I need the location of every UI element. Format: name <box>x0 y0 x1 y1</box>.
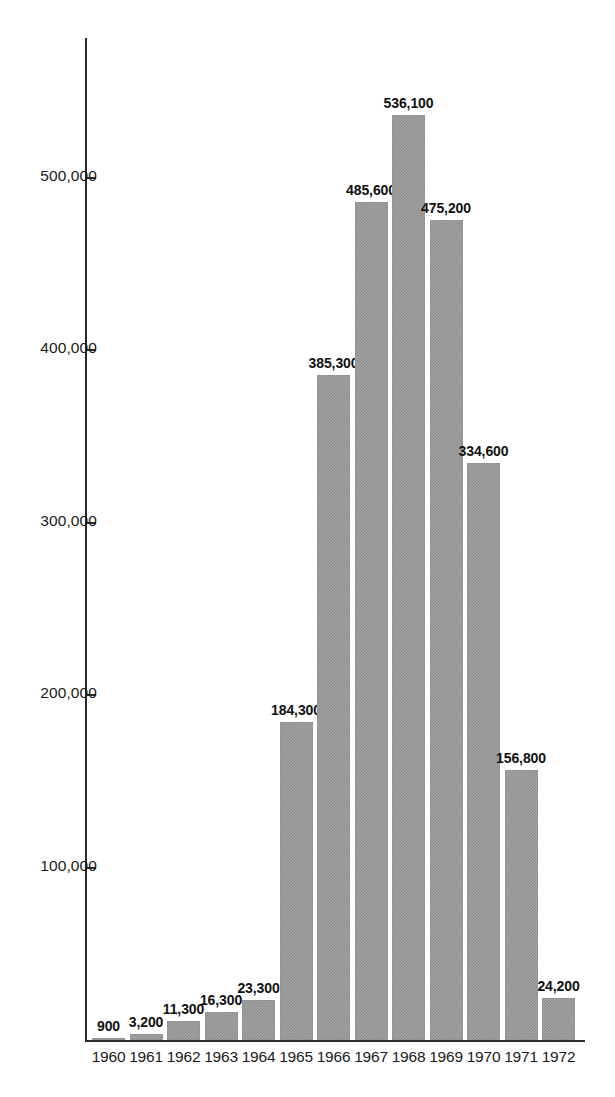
bar <box>92 1038 125 1040</box>
x-axis-tick-label: 1967 <box>352 1048 391 1066</box>
bar-column: 16,300 <box>205 1012 238 1040</box>
bar-value-label: 3,200 <box>129 1014 164 1030</box>
y-axis-tick-label: 200,000 <box>21 684 97 702</box>
bar-column: 385,300 <box>317 375 350 1040</box>
bar-value-label: 23,300 <box>237 980 279 996</box>
bar <box>317 375 350 1040</box>
y-axis-tick-label: 400,000 <box>21 339 97 357</box>
bar <box>355 202 388 1040</box>
x-axis-line <box>85 1040 585 1042</box>
bar-column: 184,300 <box>280 722 313 1040</box>
bar-value-label: 900 <box>97 1018 120 1034</box>
bar <box>430 220 463 1040</box>
bar-value-label: 156,800 <box>496 750 546 766</box>
bar-column: 536,100 <box>392 115 425 1040</box>
bar-value-label: 24,200 <box>537 978 579 994</box>
bar-value-label: 475,200 <box>421 200 471 216</box>
bar <box>392 115 425 1040</box>
bar-value-label: 334,600 <box>459 443 509 459</box>
bar <box>205 1012 238 1040</box>
x-axis-tick-label: 1970 <box>464 1048 503 1066</box>
bar-column: 156,800 <box>505 770 538 1040</box>
x-axis-tick-label: 1963 <box>202 1048 241 1066</box>
bar-value-label: 485,600 <box>346 182 396 198</box>
y-axis-tick-label: 300,000 <box>21 512 97 530</box>
bar-value-label: 16,300 <box>200 992 242 1008</box>
x-axis-tick-label: 1960 <box>89 1048 128 1066</box>
bar <box>167 1021 200 1040</box>
plot-area: 100,000200,000300,000400,000500,000 9003… <box>0 0 615 1097</box>
bar-value-label: 11,300 <box>163 1001 204 1017</box>
bar <box>242 1000 275 1040</box>
bar-column: 485,600 <box>355 202 388 1040</box>
x-axis-tick-label: 1968 <box>389 1048 428 1066</box>
y-axis-tick-label: 100,000 <box>21 857 97 875</box>
x-axis-tick-label: 1964 <box>239 1048 278 1066</box>
bar-value-label: 184,300 <box>271 702 321 718</box>
x-axis-tick-label: 1961 <box>127 1048 166 1066</box>
bar-column: 11,300 <box>167 1021 200 1040</box>
bar-value-label: 385,300 <box>309 355 359 371</box>
bar-column: 475,200 <box>430 220 463 1040</box>
bar <box>280 722 313 1040</box>
bar <box>542 998 575 1040</box>
bar-value-label: 536,100 <box>384 95 434 111</box>
x-axis-tick-label: 1962 <box>164 1048 203 1066</box>
bar-column: 23,300 <box>242 1000 275 1040</box>
bar-chart: 100,000200,000300,000400,000500,000 9003… <box>0 0 615 1097</box>
bar-column: 900 <box>92 1038 125 1040</box>
bar <box>130 1034 163 1040</box>
x-axis-tick-label: 1971 <box>502 1048 541 1066</box>
bar <box>505 770 538 1040</box>
bar-column: 24,200 <box>542 998 575 1040</box>
y-axis-line <box>85 38 87 1042</box>
bar-column: 3,200 <box>130 1034 163 1040</box>
x-axis-tick-label: 1969 <box>427 1048 466 1066</box>
x-axis-tick-label: 1966 <box>314 1048 353 1066</box>
y-axis-tick-label: 500,000 <box>21 167 97 185</box>
x-axis-tick-label: 1972 <box>539 1048 578 1066</box>
x-axis-tick-label: 1965 <box>277 1048 316 1066</box>
